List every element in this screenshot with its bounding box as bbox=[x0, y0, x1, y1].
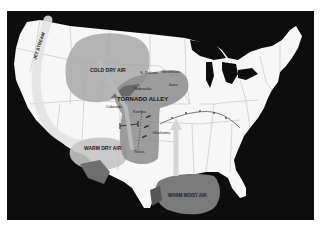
state-label-nebraska: Nebraska bbox=[134, 86, 152, 91]
warm-moist-air-label: WARM MOIST AIR bbox=[168, 193, 207, 198]
tornado-alley-label: TORNADO ALLEY bbox=[117, 96, 168, 102]
state-label-oklahoma: Oklahoma bbox=[152, 130, 171, 135]
state-label-kansas: Kansas bbox=[133, 109, 146, 114]
tornado-alley-map: JET STREAM COLD DRY AIR WARM DRY AIR WAR… bbox=[0, 0, 323, 230]
state-label-minnesota: Minnesota bbox=[162, 69, 181, 74]
cold-dry-air-label: COLD DRY AIR bbox=[90, 67, 126, 73]
state-label-colorado: Colorado bbox=[106, 104, 123, 109]
state-label-iowa: Iowa bbox=[169, 82, 178, 87]
state-label-texas: Texas bbox=[134, 149, 144, 154]
warm-dry-air-label: WARM DRY AIR bbox=[84, 145, 122, 151]
state-label-s-dakota: S. Dakota bbox=[140, 70, 158, 75]
